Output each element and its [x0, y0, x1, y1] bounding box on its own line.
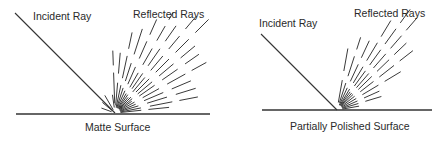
- reflected-ray-dash: [150, 102, 172, 106]
- reflected-ray-dash: [123, 56, 128, 78]
- reflected-ray-dash: [176, 88, 195, 94]
- reflected-ray-dash: [366, 97, 381, 102]
- reflected-ray-dash: [176, 40, 189, 53]
- reflected-rays: [338, 10, 417, 109]
- reflected-ray-dash: [357, 38, 361, 49]
- incident-ray-line: [261, 34, 337, 110]
- reflected-ray-dash: [391, 36, 402, 48]
- reflected-ray-dash: [149, 107, 169, 109]
- reflected-ray-dash: [130, 73, 138, 87]
- surface-label: Partially Polished Surface: [290, 120, 410, 132]
- reflected-ray-dash: [143, 89, 159, 98]
- reflected-ray-dash: [139, 42, 146, 59]
- incident-ray-label: Incident Ray: [259, 17, 318, 29]
- reflected-ray-dash: [181, 46, 195, 58]
- reflected-ray-dash: [344, 49, 348, 71]
- reflected-ray-dash: [362, 41, 370, 57]
- reflected-ray-dash: [119, 53, 121, 73]
- incident-ray-line: [15, 13, 115, 113]
- reflected-ray-dash: [351, 65, 359, 81]
- reflected-ray-dash: [367, 43, 377, 60]
- reflected-ray-dash: [166, 26, 176, 41]
- reflection-diagram-canvas: Incident Ray Reflected Rays Matte Surfac…: [0, 0, 441, 143]
- reflected-ray-dash: [172, 81, 190, 89]
- incident-ray-label: Incident Ray: [33, 10, 92, 22]
- reflected-ray-dash: [361, 82, 374, 92]
- reflected-ray-dash: [185, 55, 198, 64]
- reflected-rays-label: Reflected Rays: [133, 8, 204, 20]
- reflected-ray-dash: [169, 36, 179, 48]
- reflected-ray-dash: [400, 51, 413, 61]
- reflected-ray-dash: [180, 97, 198, 100]
- reflected-ray-dash: [385, 72, 400, 81]
- reflected-ray-dash: [196, 20, 209, 33]
- surface-label: Matte Surface: [85, 121, 151, 133]
- reflected-ray-dash: [134, 29, 142, 54]
- reflected-ray-dash: [381, 21, 390, 36]
- polished-surface-diagram: Incident Ray Reflected Rays Partially Po…: [259, 7, 432, 132]
- reflected-ray-dash: [192, 63, 206, 71]
- reflected-ray-dash: [348, 57, 354, 76]
- reflected-ray-dash: [395, 43, 407, 54]
- reflected-ray-dash: [114, 73, 115, 103]
- reflected-ray-dash: [113, 95, 115, 107]
- reflected-ray-dash: [129, 33, 132, 49]
- reflected-ray-dash: [385, 29, 396, 44]
- reflected-ray-dash: [407, 18, 418, 30]
- reflected-ray-dash: [157, 26, 165, 40]
- matte-surface-diagram: Incident Ray Reflected Rays Matte Surfac…: [15, 8, 210, 133]
- reflected-ray-dash: [168, 74, 186, 84]
- reflected-ray-dash: [150, 20, 157, 35]
- reflected-rays-label: Reflected Rays: [354, 7, 425, 19]
- reflected-rays: [102, 13, 209, 113]
- reflected-ray-dash: [113, 51, 114, 65]
